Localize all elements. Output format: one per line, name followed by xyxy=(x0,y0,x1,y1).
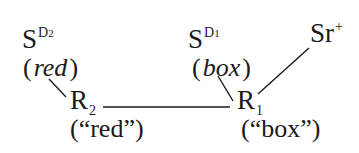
node-red-italic: (red) xyxy=(23,55,78,81)
red-italic-text: red xyxy=(34,53,68,82)
node-s-d2: SD2 xyxy=(22,26,54,53)
box-italic-text: box xyxy=(203,53,241,82)
s-d2-sup-index: 2 xyxy=(48,27,54,39)
node-s-d1: SD1 xyxy=(188,26,220,53)
sr-plus-superscript: + xyxy=(335,19,343,34)
node-box-italic: (box) xyxy=(192,55,251,81)
red-open-paren: ( xyxy=(23,53,32,82)
s-d2-base: S xyxy=(22,24,37,54)
s-d1-sup-index: 1 xyxy=(214,27,220,39)
node-red-quoted: (“red”) xyxy=(70,116,144,142)
sr-plus-base: Sr xyxy=(310,18,334,48)
box-close-paren: ) xyxy=(242,53,251,82)
s-d2-sup-letter: D xyxy=(38,25,48,40)
s-d1-base: S xyxy=(188,24,203,54)
s-d1-superscript: D1 xyxy=(204,25,220,40)
s-d2-superscript: D2 xyxy=(38,25,54,40)
edge-srplus-to-r1 xyxy=(258,48,309,94)
r2-base: R xyxy=(70,85,88,115)
box-open-paren: ( xyxy=(192,53,201,82)
node-r1: R1 xyxy=(237,87,263,114)
red-close-paren: ) xyxy=(69,53,78,82)
r1-base: R xyxy=(237,85,255,115)
node-box-quoted: (“box”) xyxy=(241,116,320,142)
node-sr-plus: Sr+ xyxy=(310,20,343,47)
s-d1-sup-letter: D xyxy=(204,25,214,40)
node-r2: R2 xyxy=(70,87,96,114)
